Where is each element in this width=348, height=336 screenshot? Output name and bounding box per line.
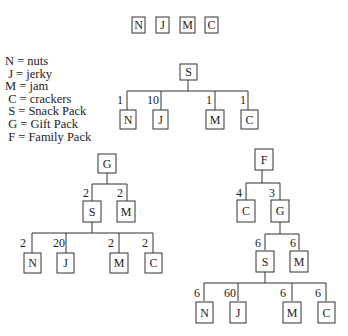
qty-label: 10 xyxy=(147,93,159,107)
svg-text:N: N xyxy=(28,256,37,270)
node-j: J xyxy=(57,253,74,273)
svg-text:M: M xyxy=(121,205,132,219)
qty-label: 6 xyxy=(280,286,286,300)
qty-label: 4 xyxy=(236,186,242,200)
node-n: N xyxy=(24,253,41,273)
svg-text:N: N xyxy=(124,113,133,127)
node-m: M xyxy=(110,253,128,273)
svg-text:C: C xyxy=(207,18,215,32)
svg-text:S: S xyxy=(185,65,192,79)
item-box-n: N xyxy=(132,17,145,33)
svg-text:G: G xyxy=(276,204,285,218)
node-s: S xyxy=(180,64,197,80)
svg-text:G: G xyxy=(103,157,112,171)
svg-text:N: N xyxy=(134,18,143,32)
svg-text:M: M xyxy=(182,18,193,32)
node-m: M xyxy=(117,201,135,222)
svg-text:J: J xyxy=(160,18,165,32)
svg-text:J: J xyxy=(158,113,163,127)
item-box-m: M xyxy=(180,17,195,33)
qty-label: 6 xyxy=(315,286,321,300)
node-n: N xyxy=(196,302,213,323)
node-s: S xyxy=(83,201,101,222)
family-pack-tree: F 4 3 C G 6 6 S M 6 60 6 6 N J M C xyxy=(194,149,335,323)
svg-text:M: M xyxy=(210,113,221,127)
qty-label: 2 xyxy=(20,236,26,250)
node-j: J xyxy=(153,110,168,129)
qty-label: 6 xyxy=(290,236,296,250)
qty-label: 20 xyxy=(53,236,65,250)
node-c: C xyxy=(241,110,258,129)
svg-text:C: C xyxy=(322,306,330,320)
svg-text:M: M xyxy=(287,306,298,320)
svg-text:N: N xyxy=(200,306,209,320)
item-box-j: J xyxy=(156,17,169,33)
node-s: S xyxy=(256,251,274,272)
qty-label: 2 xyxy=(142,236,148,250)
node-m: M xyxy=(206,110,224,129)
svg-text:C: C xyxy=(245,113,253,127)
qty-label: 3 xyxy=(269,186,275,200)
snack-pack-tree: S 1 10 1 1 N J M C xyxy=(117,64,258,129)
svg-text:S: S xyxy=(262,255,269,269)
svg-text:M: M xyxy=(114,256,125,270)
qty-label: 60 xyxy=(224,286,236,300)
svg-text:F: F xyxy=(261,153,268,167)
qty-label: 1 xyxy=(117,93,123,107)
item-box-c: C xyxy=(205,17,218,33)
svg-text:C: C xyxy=(149,256,157,270)
svg-text:J: J xyxy=(236,306,241,320)
qty-label: 6 xyxy=(194,286,200,300)
gift-pack-tree: G 2 2 S M 2 20 2 2 N J M C xyxy=(20,154,162,273)
node-c: C xyxy=(145,253,162,273)
node-g: G xyxy=(98,154,116,173)
svg-text:J: J xyxy=(63,256,68,270)
node-j: J xyxy=(230,302,246,323)
node-g: G xyxy=(271,200,289,222)
qty-label: 1 xyxy=(240,93,246,107)
node-m: M xyxy=(290,251,308,272)
qty-label: 2 xyxy=(108,236,114,250)
bill-of-materials-diagram: N J M C S 1 10 1 1 N J M C G 2 2 S M xyxy=(0,0,348,336)
node-c: C xyxy=(318,302,335,323)
node-m: M xyxy=(283,302,301,323)
svg-text:M: M xyxy=(294,255,305,269)
node-f: F xyxy=(255,149,273,170)
qty-label: 6 xyxy=(255,236,261,250)
qty-label: 1 xyxy=(206,93,212,107)
items-row: N J M C xyxy=(132,17,218,33)
node-c: C xyxy=(237,200,255,222)
svg-text:S: S xyxy=(89,205,96,219)
qty-label: 2 xyxy=(117,186,123,200)
svg-text:C: C xyxy=(242,204,250,218)
node-n: N xyxy=(120,110,136,129)
qty-label: 2 xyxy=(83,186,89,200)
